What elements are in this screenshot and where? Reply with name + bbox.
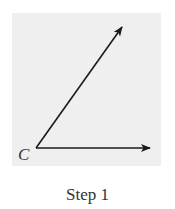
angle-figure bbox=[0, 0, 175, 209]
vertex-label: C bbox=[18, 146, 29, 163]
diagonal-ray bbox=[36, 27, 122, 148]
step-caption: Step 1 bbox=[0, 186, 175, 203]
